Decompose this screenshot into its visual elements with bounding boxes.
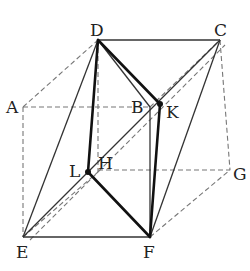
edge-LF [88, 172, 150, 237]
label-D: D [90, 20, 104, 40]
label-H: H [98, 153, 113, 173]
label-G: G [233, 164, 247, 184]
label-L: L [69, 161, 80, 181]
label-K: K [166, 102, 179, 122]
edge-EH [23, 172, 98, 237]
point-K-dot [157, 101, 163, 107]
cube-diagram: D C A B K L H G E F [0, 0, 250, 271]
label-B: B [131, 97, 144, 117]
section-edges [88, 40, 160, 237]
edge-AD [23, 40, 98, 107]
label-E: E [16, 242, 28, 262]
edge-DK [98, 40, 160, 104]
label-C: C [214, 20, 227, 40]
edge-DL [88, 40, 98, 172]
point-L-dot [85, 169, 91, 175]
label-A: A [5, 97, 19, 117]
edge-CF [150, 40, 220, 237]
label-F: F [143, 242, 155, 262]
edge-DE [23, 40, 98, 237]
edge-CG [220, 40, 230, 170]
